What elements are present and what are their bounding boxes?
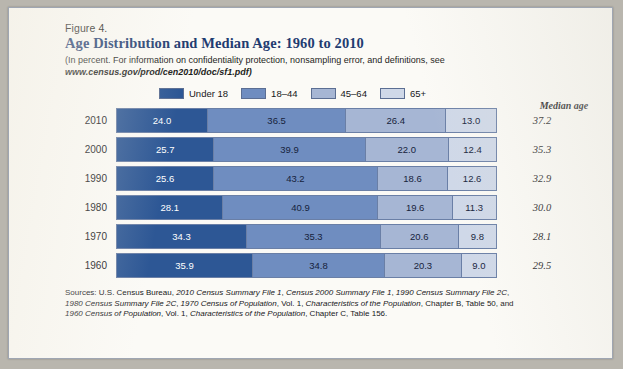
bar-segment-value: 34.3 [172,231,191,242]
sources-text: Sources: U.S. Census Bureau, [65,288,176,297]
bar-segment-45-64: 20.6 [381,225,459,248]
bar-segment-value: 18.6 [403,173,422,184]
legend-label: 45–64 [341,88,367,99]
figure-subtitle: (In percent. For information on confiden… [65,55,535,78]
row-year-label: 1960 [65,260,116,271]
chart-row: 198028.140.919.611.330.0 [65,195,605,220]
bar-segment-18-44: 35.3 [247,225,381,248]
bar-segment-value: 22.0 [398,144,417,155]
sources-text: 2010 Census Summary File 1 [176,288,281,297]
sources-text: , Chapter B, Table 50, and [421,299,514,308]
bar-segment-value: 35.9 [175,260,194,271]
bar-segment-value: 12.6 [463,173,482,184]
chart-legend: Under 18 18–44 45–64 65+ [159,87,605,100]
bar-segment-value: 34.8 [309,260,328,271]
bar-segment-value: 12.4 [463,144,482,155]
chart-row: 196035.934.820.39.029.5 [65,253,605,278]
bar-segment-18-44: 34.8 [253,254,385,277]
bar-segment-value: 19.6 [406,202,425,213]
row-year-label: 2010 [65,115,116,126]
bar-segment-18-44: 36.5 [208,109,346,132]
median-age-value: 28.1 [505,231,579,242]
figure-source-url: www.census.gov/prod/cen2010/doc/sf1.pdf) [65,67,252,77]
stacked-bar: 25.739.922.012.4 [116,137,497,162]
sources-text: , Vol. 1, [277,299,306,308]
bar-segment-under-18: 35.9 [117,254,253,277]
legend-item-under-18: Under 18 [159,88,228,99]
stacked-bar-chart: 201024.036.526.413.037.2200025.739.922.0… [65,108,605,278]
legend-swatch-icon [241,88,266,99]
bar-segment-65: 12.4 [449,138,496,161]
sources-text: Census 2000 Summary File 1 [286,288,391,297]
sources-text: 1960 Census of Population [65,309,161,318]
sources-text: Characteristics of the Population [190,309,305,318]
bar-segment-value: 43.2 [286,173,305,184]
stacked-bar: 24.036.526.413.0 [116,108,497,133]
bar-segment-65: 9.0 [462,254,496,277]
bar-segment-value: 20.3 [414,260,433,271]
sources-text: 1970 Census of Population [181,299,277,308]
row-year-label: 1980 [65,202,116,213]
sources-note: Sources: U.S. Census Bureau, 2010 Census… [65,288,535,320]
bar-segment-value: 24.0 [153,115,172,126]
sources-text: , Chapter C, Table 156. [305,309,387,318]
stacked-bar: 34.335.320.69.8 [116,224,497,249]
figure-number: Figure 4. [65,22,605,34]
bar-segment-value: 9.8 [471,231,484,242]
bar-segment-45-64: 20.3 [385,254,462,277]
bar-segment-value: 25.6 [156,173,175,184]
chart-row: 199025.643.218.612.632.9 [65,166,605,191]
bar-segment-18-44: 40.9 [223,196,378,219]
stacked-bar: 25.643.218.612.6 [116,166,497,191]
row-year-label: 1990 [65,173,116,184]
legend-item-45-64: 45–64 [311,88,367,99]
chart-row: 200025.739.922.012.435.3 [65,137,605,162]
bar-segment-65: 11.3 [453,196,496,219]
legend-item-65-plus: 65+ [380,88,426,99]
figure-title: Age Distribution and Median Age: 1960 to… [65,35,605,52]
bar-segment-18-44: 43.2 [214,167,378,190]
bar-segment-value: 28.1 [160,202,179,213]
median-age-value: 29.5 [505,260,579,271]
median-age-value: 32.9 [505,173,579,184]
bar-segment-value: 40.9 [291,202,310,213]
legend-label: 18–44 [271,88,297,99]
bar-segment-value: 26.4 [387,115,406,126]
sources-text: Characteristics of the Population [306,299,421,308]
sources-text: , [507,288,509,297]
bar-segment-65: 13.0 [446,109,495,132]
bar-segment-45-64: 18.6 [378,167,448,190]
bar-segment-value: 13.0 [462,115,481,126]
legend-item-18-44: 18–44 [241,88,297,99]
bar-segment-65: 9.8 [459,225,496,248]
chart-row: 197034.335.320.69.828.1 [65,224,605,249]
legend-swatch-icon [380,88,405,99]
stacked-bar: 35.934.820.39.0 [116,253,497,278]
sources-text: , Vol. 1, [161,309,190,318]
bar-segment-45-64: 22.0 [366,138,449,161]
bar-segment-18-44: 39.9 [214,138,365,161]
bar-segment-value: 35.3 [304,231,323,242]
median-age-value: 35.3 [505,144,579,155]
bar-segment-value: 11.3 [465,202,483,213]
sources-text: 1980 Census Summary File 2C [65,299,176,308]
bar-segment-value: 20.6 [410,231,429,242]
bar-segment-value: 9.0 [472,260,485,271]
sources-text: 1990 Census Summary File 2C [396,288,507,297]
row-year-label: 2000 [65,144,116,155]
bar-segment-under-18: 25.7 [117,138,214,161]
legend-label: 65+ [410,88,426,99]
median-age-value: 37.2 [505,115,579,126]
legend-swatch-icon [311,88,336,99]
chart-row: 201024.036.526.413.037.2 [65,108,605,133]
bar-segment-under-18: 24.0 [117,109,208,132]
bar-segment-65: 12.6 [448,167,496,190]
bar-segment-45-64: 26.4 [346,109,446,132]
median-age-value: 30.0 [505,202,579,213]
legend-label: Under 18 [189,88,228,99]
bar-segment-under-18: 25.6 [117,167,214,190]
bar-segment-value: 39.9 [280,144,299,155]
bar-segment-value: 36.5 [267,115,286,126]
bar-segment-45-64: 19.6 [378,196,452,219]
bar-segment-value: 25.7 [156,144,175,155]
